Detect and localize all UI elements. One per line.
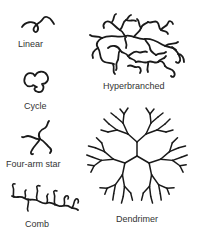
label-dendrimer: Dendrimer bbox=[116, 214, 158, 224]
dendrimer-icon bbox=[0, 0, 197, 238]
